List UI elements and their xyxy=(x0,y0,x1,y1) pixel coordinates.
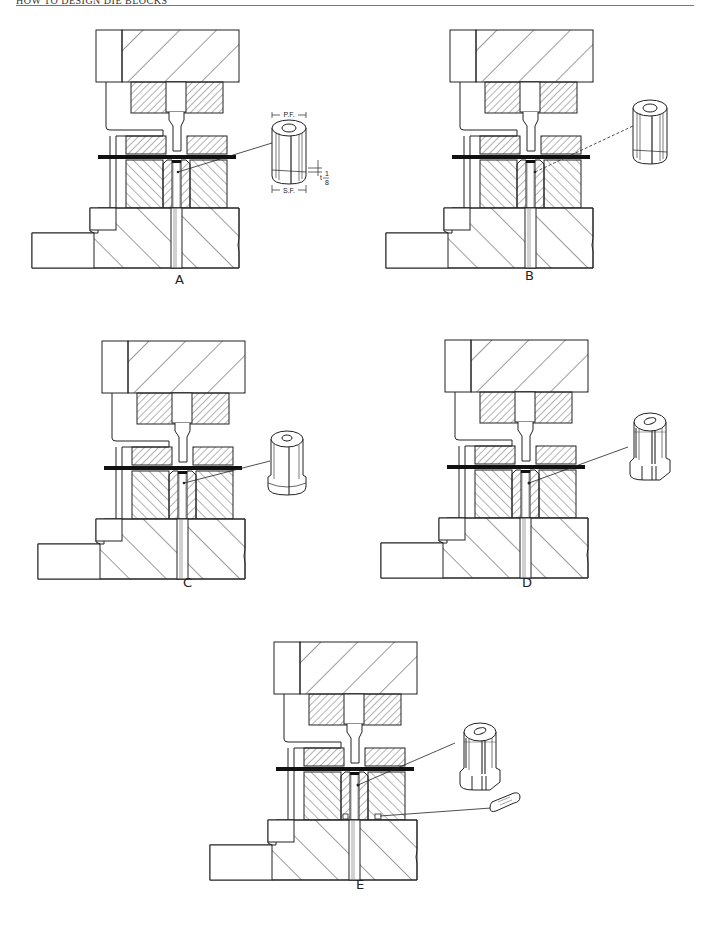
dimension-pf: P.F. xyxy=(283,111,294,118)
figure-label-c: C xyxy=(183,575,192,590)
dimension-t: t xyxy=(320,174,322,181)
figure-label-e: E xyxy=(356,877,364,892)
figure-a: P.F. S.F. t 1 8 xyxy=(32,30,362,275)
figure-e xyxy=(210,642,530,887)
dimension-fraction-num: 1 xyxy=(325,170,329,177)
figure-b xyxy=(386,30,702,275)
dimension-fraction-den: 8 xyxy=(325,179,329,186)
figure-label-a: A xyxy=(175,272,184,287)
die-section-drawing xyxy=(38,341,358,586)
header-rule xyxy=(16,5,694,6)
bushing-insert-detail xyxy=(460,723,500,790)
die-section-drawing: P.F. S.F. t 1 8 xyxy=(32,30,362,275)
figure-d xyxy=(381,340,702,585)
bushing-insert-detail xyxy=(272,120,306,184)
bushing-insert-detail xyxy=(633,100,667,164)
dimension-sf: S.F. xyxy=(283,187,295,194)
die-section-drawing xyxy=(381,340,702,585)
key-part xyxy=(490,793,520,812)
die-section-drawing xyxy=(386,30,702,275)
bushing-insert-detail xyxy=(268,431,306,495)
figure-c xyxy=(38,341,358,586)
bushing-insert-detail xyxy=(630,413,670,480)
die-section-drawing xyxy=(210,642,530,887)
figure-label-d: D xyxy=(522,575,532,590)
figure-label-b: B xyxy=(525,268,534,283)
